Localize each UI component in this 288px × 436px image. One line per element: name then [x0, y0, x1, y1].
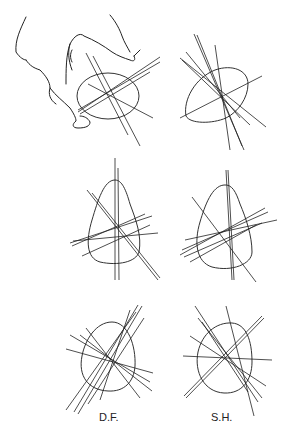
balance-line: [226, 306, 254, 416]
balance-line: [182, 212, 268, 250]
balance-line: [88, 84, 153, 118]
balance-line: [190, 225, 256, 262]
balance-line: [197, 35, 242, 146]
shape-outline: [88, 180, 140, 264]
panel-middle-right: [180, 170, 277, 282]
balance-line: [80, 335, 152, 391]
balance-line: [80, 72, 150, 114]
panel-bottom-left: [66, 305, 153, 414]
balance-line: [78, 57, 160, 112]
balance-line: [186, 52, 240, 118]
balance-line: [73, 233, 158, 241]
label-df: D.F.: [99, 411, 119, 423]
panel-top-right: [180, 34, 266, 150]
balance-line: [88, 318, 144, 404]
balance-line: [66, 312, 136, 410]
panel-middle-left: [70, 158, 160, 280]
label-sh: S.H.: [211, 411, 232, 423]
balance-lines-figure: [0, 0, 288, 436]
panel-top-left: [16, 15, 160, 146]
shape-outline: [197, 185, 252, 269]
balance-line: [74, 305, 138, 412]
balance-line: [92, 193, 160, 278]
balance-line: [93, 56, 140, 146]
balance-line: [215, 45, 230, 150]
panel-bottom-right: [183, 306, 272, 416]
balance-line: [78, 62, 160, 110]
balance-line: [183, 356, 272, 360]
